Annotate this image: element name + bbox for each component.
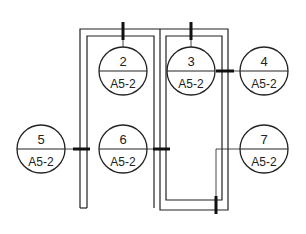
callout-6-number: 6 <box>119 132 126 147</box>
callout-4-sheet: A5-2 <box>251 77 277 91</box>
callout-2: 2 A5-2 <box>99 47 147 95</box>
callout-7: 7 A5-2 <box>240 125 288 173</box>
callout-5-number: 5 <box>37 132 44 147</box>
callout-5-sheet: A5-2 <box>28 155 54 169</box>
detail-callout-diagram: 2 A5-2 3 A5-2 4 A5-2 5 A5-2 6 A5-2 7 A5-… <box>0 0 306 234</box>
callout-5: 5 A5-2 <box>17 125 65 173</box>
callout-6: 6 A5-2 <box>99 125 147 173</box>
callout-3-sheet: A5-2 <box>178 77 204 91</box>
callout-7-sheet: A5-2 <box>251 155 277 169</box>
callout-4: 4 A5-2 <box>240 47 288 95</box>
callout-3-number: 3 <box>187 54 194 69</box>
callout-7-number: 7 <box>260 132 267 147</box>
callout-4-number: 4 <box>260 54 267 69</box>
section-cut-marks <box>65 22 240 214</box>
callout-3: 3 A5-2 <box>167 47 215 95</box>
callout-6-sheet: A5-2 <box>110 155 136 169</box>
callout-2-number: 2 <box>119 54 126 69</box>
callout-2-sheet: A5-2 <box>110 77 136 91</box>
